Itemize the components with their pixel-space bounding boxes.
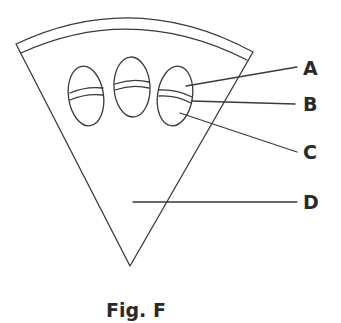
- label-b: B: [303, 93, 317, 115]
- wedge-shape: [16, 18, 253, 266]
- label-a: A: [303, 57, 318, 79]
- label-d: D: [303, 191, 319, 213]
- figure-caption: Fig. F: [106, 299, 166, 321]
- figure-diagram: A B C D Fig. F: [0, 0, 341, 323]
- label-c: C: [303, 141, 317, 163]
